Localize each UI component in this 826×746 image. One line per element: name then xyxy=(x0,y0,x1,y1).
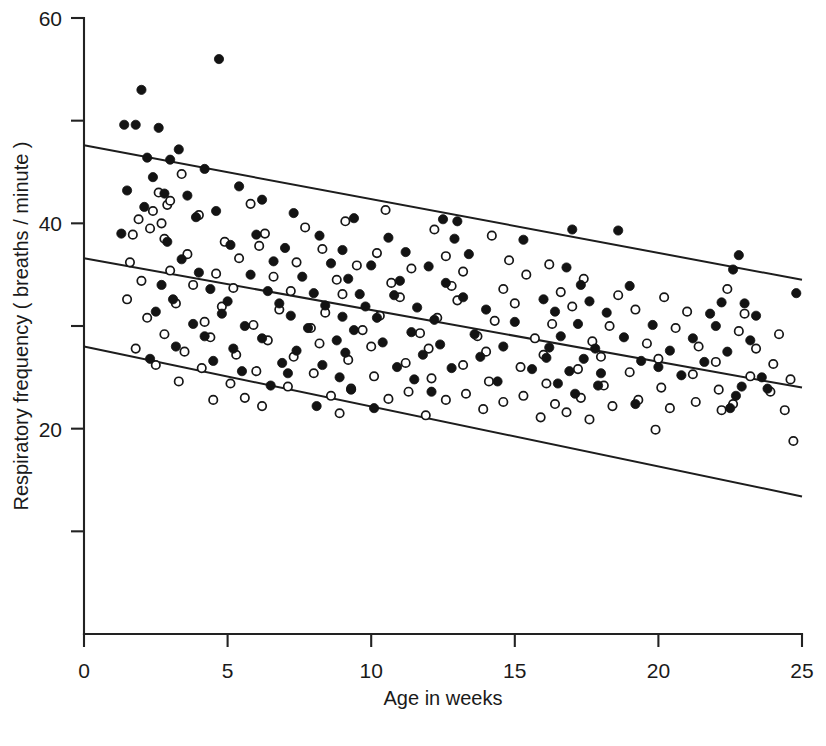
data-point-open xyxy=(740,309,748,317)
data-point-filled xyxy=(209,356,218,365)
data-point-filled xyxy=(441,278,450,287)
data-point-open xyxy=(384,395,392,403)
data-point-filled xyxy=(602,308,611,317)
data-point-open xyxy=(137,277,145,285)
data-point-filled xyxy=(648,320,657,329)
data-point-filled xyxy=(700,357,709,366)
y-tick-label: 40 xyxy=(39,212,62,235)
y-tick-label: 20 xyxy=(39,418,62,441)
data-point-open xyxy=(631,305,639,313)
data-point-filled xyxy=(539,295,548,304)
data-point-open xyxy=(310,369,318,377)
data-point-filled xyxy=(361,302,370,311)
data-point-open xyxy=(536,413,544,421)
data-point-filled xyxy=(163,237,172,246)
data-point-open xyxy=(327,392,335,400)
data-point-filled xyxy=(217,309,226,318)
data-point-filled xyxy=(438,215,447,224)
data-point-filled xyxy=(367,261,376,270)
data-point-filled xyxy=(257,334,266,343)
data-point-filled xyxy=(665,346,674,355)
data-point-open xyxy=(123,295,131,303)
data-point-filled xyxy=(470,330,479,339)
data-point-filled xyxy=(183,191,192,200)
data-point-filled xyxy=(283,369,292,378)
data-point-filled xyxy=(757,373,766,382)
data-point-open xyxy=(404,388,412,396)
data-point-open xyxy=(160,330,168,338)
data-point-open xyxy=(430,225,438,233)
data-point-filled xyxy=(174,145,183,154)
data-point-filled xyxy=(384,233,393,242)
data-point-open xyxy=(358,326,366,334)
data-point-filled xyxy=(212,206,221,215)
data-point-filled xyxy=(677,371,686,380)
data-point-filled xyxy=(168,295,177,304)
data-point-filled xyxy=(734,251,743,260)
x-tick-label: 5 xyxy=(222,659,234,682)
data-point-filled xyxy=(751,311,760,320)
data-point-filled xyxy=(292,346,301,355)
data-point-filled xyxy=(206,284,215,293)
data-point-open xyxy=(381,206,389,214)
data-point-filled xyxy=(447,363,456,372)
data-point-filled xyxy=(120,120,129,129)
axes-group xyxy=(71,18,802,647)
data-point-filled xyxy=(263,286,272,295)
data-point-open xyxy=(180,347,188,355)
data-point-filled xyxy=(392,362,401,371)
data-point-open xyxy=(608,402,616,410)
data-point-open xyxy=(442,252,450,260)
data-point-open xyxy=(146,224,154,232)
data-point-open xyxy=(654,355,662,363)
data-point-filled xyxy=(338,245,347,254)
data-point-filled xyxy=(427,387,436,396)
data-point-filled xyxy=(550,307,559,316)
data-point-filled xyxy=(706,309,715,318)
data-point-filled xyxy=(355,290,364,299)
data-point-filled xyxy=(154,123,163,132)
x-axis-title: Age in weeks xyxy=(384,687,503,709)
data-point-open xyxy=(200,318,208,326)
data-point-open xyxy=(333,276,341,284)
data-point-filled xyxy=(556,332,565,341)
data-point-filled xyxy=(252,230,261,239)
data-point-open xyxy=(284,382,292,390)
data-point-filled xyxy=(321,301,330,310)
data-point-open xyxy=(129,230,137,238)
data-point-filled xyxy=(200,332,209,341)
data-point-filled xyxy=(275,299,284,308)
data-point-filled xyxy=(341,348,350,357)
data-point-open xyxy=(735,327,743,335)
data-point-filled xyxy=(266,381,275,390)
data-point-open xyxy=(671,324,679,332)
data-point-open xyxy=(666,404,674,412)
data-point-filled xyxy=(737,382,746,391)
data-point-filled xyxy=(711,321,720,330)
data-point-filled xyxy=(565,367,574,376)
data-point-filled xyxy=(717,298,726,307)
data-point-open xyxy=(505,256,513,264)
data-point-filled xyxy=(286,311,295,320)
data-point-filled xyxy=(593,381,602,390)
data-point-open xyxy=(407,264,415,272)
data-point-open xyxy=(689,370,697,378)
data-point-filled xyxy=(493,377,502,386)
data-point-filled xyxy=(625,281,634,290)
data-point-open xyxy=(198,364,206,372)
data-point-open xyxy=(229,284,237,292)
data-point-open xyxy=(479,405,487,413)
data-point-open xyxy=(775,330,783,338)
data-point-filled xyxy=(315,231,324,240)
data-point-filled xyxy=(338,312,347,321)
data-point-filled xyxy=(407,328,416,337)
data-point-open xyxy=(341,217,349,225)
data-point-filled xyxy=(269,257,278,266)
data-point-filled xyxy=(430,315,439,324)
data-point-open xyxy=(427,374,435,382)
data-point-filled xyxy=(303,323,312,332)
data-point-open xyxy=(789,437,797,445)
data-point-filled xyxy=(148,173,157,182)
data-point-filled xyxy=(280,243,289,252)
data-point-filled xyxy=(591,344,600,353)
